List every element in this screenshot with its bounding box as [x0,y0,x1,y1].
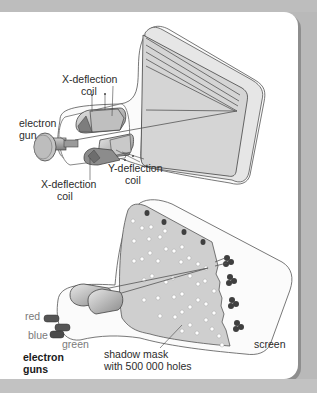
label-green: green [62,338,89,350]
label-red: red [25,310,40,322]
monochrome-crt [34,26,265,184]
colour-crt [44,200,292,355]
x-deflection-coil-top [76,108,126,133]
red-gun [44,315,59,322]
label-electron-guns: electron [23,351,64,363]
label-x-deflection-top: X-deflection [62,73,118,85]
label-screen: screen [254,338,286,350]
label-shadow-mask: shadow mask [104,348,169,360]
blue-gun [50,331,64,338]
label-x-deflection-bottom: X-deflection [41,178,97,190]
label-shadow-mask-holes: with 500 000 holes [103,360,192,372]
label-blue: blue [28,329,48,341]
label-electron-gun-2: gun [19,129,37,141]
green-gun [55,324,70,331]
label-x-deflection-top-coil: coil [81,85,97,97]
label-y-deflection-coil: coil [125,174,141,186]
label-electron-guns-2: guns [23,363,48,375]
label-electron-gun: electron [19,117,57,129]
crt-diagram: X-deflection coil electron gun Y-deflect… [0,0,317,393]
label-x-deflection-bottom-coil: coil [57,190,73,202]
label-y-deflection: Y-deflection [108,162,163,174]
